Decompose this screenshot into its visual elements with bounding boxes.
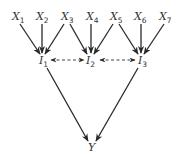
directed-graph-diagram: X1 X2 X3 X4 X5 X6 X7 I1 I2 I3 Y	[0, 0, 186, 156]
node-x5: X5	[109, 10, 123, 25]
edge-x7-i3	[144, 24, 164, 54]
edge-x5-i3	[119, 24, 138, 54]
edge-i1-y	[47, 68, 88, 141]
input-nodes: X1 X2 X3 X4 X5 X6 X7	[11, 10, 172, 25]
node-y: Y	[88, 141, 97, 154]
node-i2: I2	[85, 54, 95, 69]
output-edges	[47, 68, 138, 141]
node-i1: I1	[38, 54, 48, 69]
edge-x3-i2	[70, 24, 87, 54]
node-i3: I3	[137, 54, 147, 69]
edge-x1-i1	[20, 24, 40, 54]
node-x3: X3	[60, 10, 74, 25]
node-x6: X6	[133, 10, 147, 25]
node-x2: X2	[35, 10, 49, 25]
input-edges	[20, 24, 164, 54]
edge-x5-i2	[94, 24, 113, 54]
node-x4: X4	[85, 10, 99, 25]
edge-i3-y	[96, 68, 138, 141]
intermediate-nodes: I1 I2 I3	[38, 54, 147, 69]
edge-x3-i1	[45, 24, 64, 54]
node-x1: X1	[11, 10, 25, 25]
node-x7: X7	[158, 10, 172, 25]
